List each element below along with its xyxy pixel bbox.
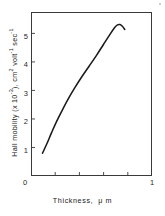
y-axis-title-exp1: -3 bbox=[8, 89, 14, 94]
x-axis-tick-marks bbox=[55, 172, 128, 176]
y-axis-title-exp3: -1 bbox=[8, 48, 14, 53]
data-curve-hall-mobility bbox=[43, 24, 125, 153]
plot-canvas bbox=[31, 12, 152, 176]
x-tick-label-0: 0 bbox=[23, 179, 27, 187]
x-axis-title-unit: μ m bbox=[98, 196, 112, 205]
x-axis-title-main: Thickness, bbox=[53, 196, 93, 205]
y-axis-title-mid: ), cm bbox=[10, 71, 19, 88]
y-axis-title-exp2: 2 bbox=[8, 68, 14, 71]
hall-mobility-figure: 5 4 3 2 1 0 1 Hall mobility (x 10-3), cm… bbox=[0, 0, 165, 216]
corner-speck bbox=[159, 3, 161, 5]
y-axis-title: Hall mobility (x 10-3), cm2 volt-1 sec-1 bbox=[10, 17, 19, 169]
y-axis-title-mid3: sec bbox=[10, 34, 19, 48]
x-tick-label-1: 1 bbox=[150, 179, 154, 187]
x-axis-title: Thickness,μ m bbox=[0, 196, 165, 205]
y-axis-title-lead: Hall mobility (x 10 bbox=[10, 94, 19, 156]
y-axis-tick-marks bbox=[31, 33, 35, 147]
y-axis-title-mid2: volt bbox=[10, 53, 19, 68]
y-axis-title-exp4: -1 bbox=[8, 28, 14, 33]
